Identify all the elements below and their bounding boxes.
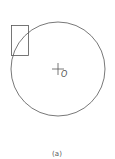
rectangle-box: [12, 26, 29, 56]
center-label: O: [61, 70, 67, 79]
caption: (a): [52, 150, 62, 158]
diagram-canvas: O (a): [0, 0, 115, 159]
